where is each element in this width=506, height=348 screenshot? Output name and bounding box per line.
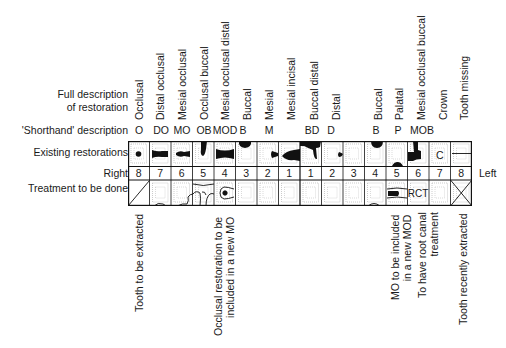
svg-text:8: 8 <box>458 167 464 179</box>
col-full-6: Mesial <box>263 90 275 120</box>
short-9: D <box>311 124 351 136</box>
restoration-mo <box>176 151 190 157</box>
col-full-0: Occlusal <box>133 80 145 120</box>
restoration-palatal <box>392 162 403 166</box>
full-description-line1: Full description <box>57 88 128 101</box>
note-mo-to-new-mod: MO to be included in a new MOD <box>389 215 413 300</box>
treat-palatal-fill <box>388 191 399 196</box>
col-full-11: Buccal <box>372 88 384 120</box>
restoration-mod <box>216 149 234 159</box>
svg-text:7: 7 <box>437 167 443 179</box>
svg-text:6: 6 <box>415 167 421 179</box>
svg-text:3: 3 <box>243 167 249 179</box>
restoration-mesial <box>271 151 278 158</box>
svg-text:4: 4 <box>372 167 378 179</box>
restoration-occlusal <box>136 151 142 157</box>
col-full-15: Tooth missing <box>458 56 470 120</box>
note-line: Occlusal restoration to be <box>212 217 224 336</box>
col-full-13: Mesial occlusal buccal <box>415 16 427 120</box>
treatment-label: Treatment to be done <box>28 182 128 195</box>
extract-slash <box>128 181 150 207</box>
svg-text:8: 8 <box>136 167 142 179</box>
restoration-distal <box>338 152 343 157</box>
svg-text:7: 7 <box>157 167 163 179</box>
svg-text:1: 1 <box>308 167 314 179</box>
col-full-14: Crown <box>437 90 449 120</box>
svg-text:4: 4 <box>222 167 228 179</box>
note-recently-extracted: Tooth recently extracted <box>457 214 469 325</box>
right-label: Right <box>103 167 128 180</box>
col-full-8: Buccal distal <box>308 61 320 120</box>
note-root-canal: To have root canal treatment <box>416 212 440 298</box>
note-line: To have root canal <box>416 212 428 298</box>
svg-text:6: 6 <box>179 167 185 179</box>
svg-text:1: 1 <box>286 167 292 179</box>
left-label: Left <box>479 167 497 179</box>
col-full-4: Mesial occlusal distal <box>219 21 231 120</box>
treat-ob-outline <box>193 184 214 206</box>
note-line: MO to be included <box>389 215 401 300</box>
note-line: Tooth recently extracted <box>457 214 469 325</box>
shorthand-label: 'Shorthand' description <box>22 124 128 137</box>
svg-text:2: 2 <box>265 167 271 179</box>
dental-chart-grid: C RCT 8765 4321 1234 5678 <box>128 141 472 206</box>
restoration-do <box>152 150 168 158</box>
note-line: in a new MOD <box>401 215 413 300</box>
col-full-3: Occlusal buccal <box>198 46 210 120</box>
col-full-12: Palatal <box>393 88 405 120</box>
treat-occlusal-dot <box>223 191 227 195</box>
full-description-label: Full description of restoration <box>57 88 128 114</box>
treat-mo-outline <box>177 194 193 206</box>
existing-restorations: C <box>136 141 471 166</box>
col-full-5: Buccal <box>241 88 253 120</box>
existing-restorations-label: Existing restorations <box>33 146 128 159</box>
short-13: MOB <box>402 124 442 136</box>
note-line: Tooth to be extracted <box>133 214 145 312</box>
note-tooth-to-be-extracted: Tooth to be extracted <box>133 214 145 312</box>
full-description-line2: of restoration <box>57 101 128 114</box>
svg-text:5: 5 <box>200 167 206 179</box>
col-full-2: Mesial occlusal <box>176 49 188 120</box>
col-full-9: Distal <box>330 94 342 120</box>
svg-text:2: 2 <box>329 167 335 179</box>
note-line: treatment <box>428 212 440 298</box>
note-occlusal-to-new-mo: Occlusal restoration to be included in a… <box>212 217 236 336</box>
col-full-7: Mesial incisal <box>285 58 297 120</box>
crown-mark: C <box>436 149 444 161</box>
svg-text:5: 5 <box>394 167 400 179</box>
col-full-1: Distal occlusal <box>154 53 166 120</box>
svg-text:3: 3 <box>351 167 357 179</box>
rct-mark: RCT <box>408 188 429 199</box>
restoration-ob <box>201 141 207 156</box>
note-line: included in a new MO <box>224 217 236 336</box>
short-6: M <box>249 124 289 136</box>
